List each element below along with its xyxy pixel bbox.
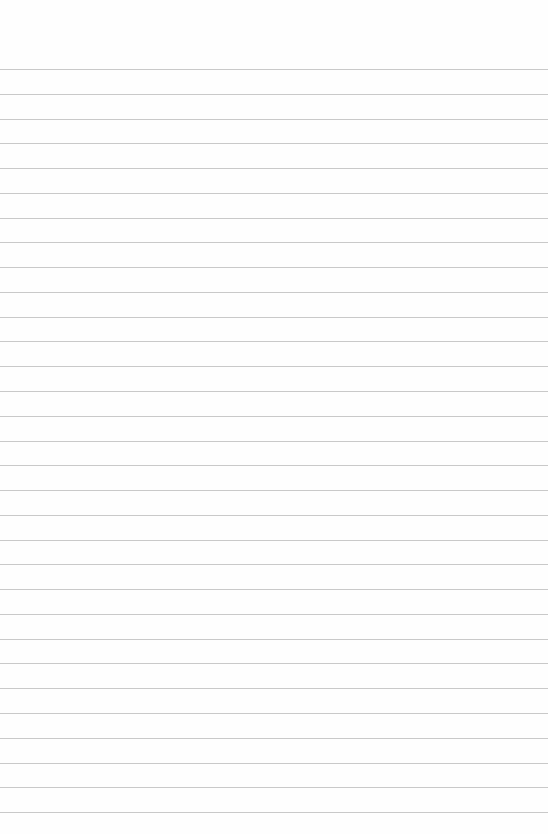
ruled-line	[0, 193, 548, 194]
ruled-line	[0, 168, 548, 169]
ruled-line	[0, 763, 548, 764]
ruled-line	[0, 787, 548, 788]
ruled-line	[0, 540, 548, 541]
ruled-line	[0, 614, 548, 615]
ruled-line	[0, 490, 548, 491]
ruled-line	[0, 341, 548, 342]
ruled-line	[0, 143, 548, 144]
ruled-line	[0, 94, 548, 95]
ruled-line	[0, 713, 548, 714]
ruled-line	[0, 391, 548, 392]
ruled-line	[0, 564, 548, 565]
ruled-line	[0, 292, 548, 293]
ruled-line	[0, 441, 548, 442]
ruled-line	[0, 465, 548, 466]
ruled-line	[0, 738, 548, 739]
ruled-line	[0, 119, 548, 120]
ruled-line	[0, 663, 548, 664]
ruled-line	[0, 218, 548, 219]
ruled-line	[0, 589, 548, 590]
ruled-line	[0, 416, 548, 417]
lined-paper-page	[0, 0, 548, 834]
ruled-line	[0, 69, 548, 70]
ruled-line	[0, 267, 548, 268]
ruled-line	[0, 812, 548, 813]
ruled-line	[0, 688, 548, 689]
ruled-line	[0, 639, 548, 640]
ruled-line	[0, 242, 548, 243]
ruled-line	[0, 366, 548, 367]
ruled-line	[0, 317, 548, 318]
ruled-line	[0, 515, 548, 516]
